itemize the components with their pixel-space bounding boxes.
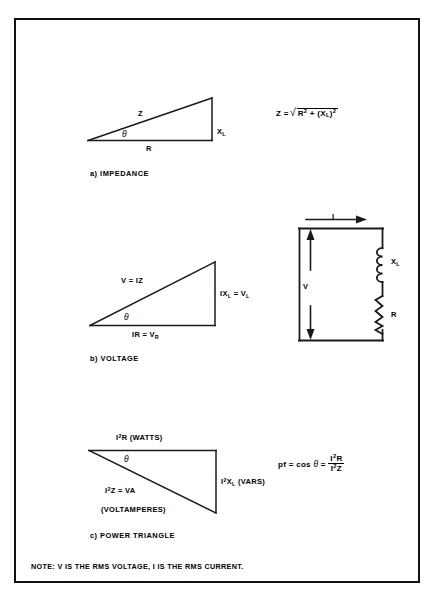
figure-note: NOTE: V IS THE RMS VOLTAGE, I IS THE RMS… bbox=[31, 563, 244, 570]
figure-page: Z XL R θ a) IMPEDANCE Z =√R2 + (XL)2 V =… bbox=[0, 0, 433, 602]
power-reactive-vars: (VARS) bbox=[236, 477, 265, 486]
power-factor-formula: pf = cos θ = I2RI2Z bbox=[278, 455, 344, 474]
rl-circuit bbox=[299, 216, 383, 341]
circuit-current-label: I bbox=[332, 213, 334, 221]
power-apparent-label: I2Z = VA bbox=[105, 487, 136, 495]
voltage-reactance-label: IXL = VL bbox=[220, 290, 250, 299]
impedance-reactance-subscript: L bbox=[222, 131, 226, 137]
voltage-triangle bbox=[90, 262, 215, 326]
impedance-formula-plus: + bbox=[310, 109, 315, 118]
power-apparent-units: (VOLTAMPERES) bbox=[101, 506, 166, 514]
power-factor-lhs: pf = cos bbox=[278, 460, 311, 469]
power-triangle bbox=[89, 451, 216, 514]
power-factor-fraction: I2RI2Z bbox=[328, 454, 344, 473]
power-factor-den-z: Z bbox=[337, 464, 342, 473]
power-reactive-label: I2XL (VARS) bbox=[221, 478, 265, 487]
power-factor-theta: θ bbox=[313, 459, 318, 469]
impedance-hypotenuse-label: Z bbox=[138, 110, 143, 118]
power-factor-equals: = bbox=[321, 460, 326, 469]
power-apparent-va: Z = VA bbox=[111, 486, 136, 495]
power-caption: c) POWER TRIANGLE bbox=[90, 532, 175, 539]
impedance-formula: Z =√R2 + (XL)2 bbox=[276, 108, 338, 119]
impedance-caption: a) IMPEDANCE bbox=[90, 170, 149, 177]
voltage-angle-label: θ bbox=[124, 313, 129, 322]
power-real-label: I2R (WATTS) bbox=[116, 434, 163, 442]
impedance-reactance-label: XL bbox=[217, 128, 226, 137]
voltage-hypotenuse-label: V = IZ bbox=[121, 277, 143, 285]
figure-line-art bbox=[0, 0, 433, 602]
impedance-triangle bbox=[88, 98, 212, 141]
power-real-watts: R (WATTS) bbox=[122, 433, 163, 442]
voltage-resistance-label: IR = VR bbox=[132, 331, 159, 340]
impedance-formula-paren-open: (X bbox=[317, 109, 326, 118]
voltage-reactance-ix: IX bbox=[220, 289, 228, 298]
impedance-formula-r-exponent: 2 bbox=[304, 108, 308, 114]
impedance-resistance-label: R bbox=[146, 145, 152, 153]
voltage-resistance-subscript: R bbox=[155, 334, 159, 340]
circuit-inductor-subscript: L bbox=[396, 261, 400, 267]
power-angle-label: θ bbox=[124, 455, 129, 464]
circuit-resistor-label: R bbox=[391, 311, 397, 319]
voltage-reactance-equals: = V bbox=[231, 289, 246, 298]
impedance-formula-paren-exponent: 2 bbox=[333, 108, 337, 114]
impedance-formula-lhs: Z = bbox=[276, 109, 289, 118]
voltage-caption: b) VOLTAGE bbox=[90, 355, 139, 362]
voltage-reactance-v-subscript: L bbox=[246, 293, 250, 299]
impedance-angle-label: θ bbox=[122, 130, 127, 139]
circuit-inductor-label: XL bbox=[391, 258, 400, 267]
power-factor-num-r: R bbox=[336, 453, 342, 462]
circuit-voltage-label: V bbox=[303, 283, 308, 291]
voltage-resistance-ir: IR = V bbox=[132, 330, 155, 339]
